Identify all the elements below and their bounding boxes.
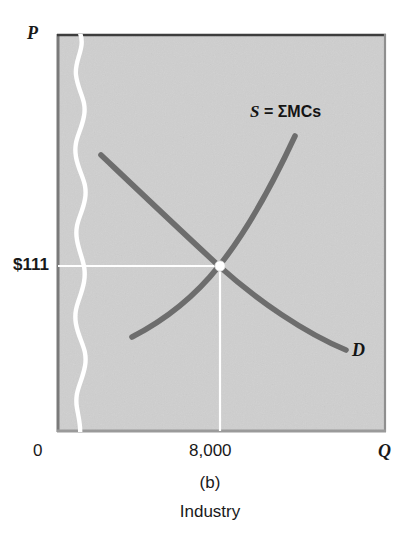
y-tick-label-equilibrium-price: $111 [13,256,49,273]
y-axis-label-price: P [27,24,38,42]
demand-curve-label: D [352,341,365,359]
equilibrium-point-marker [215,261,225,271]
panel-letter-caption: (b) [40,474,380,491]
supply-curve-label: S = ΣMCs [250,103,321,120]
figure-panel-b: P Q 0 $111 8,000 S = ΣMCs D (b) Industry [0,0,411,533]
origin-label: 0 [33,442,42,459]
x-axis-label-quantity: Q [378,442,391,460]
x-tick-label-equilibrium-quantity: 8,000 [189,442,232,459]
panel-title-caption: Industry [40,503,380,520]
supply-curve-label-expression: = ΣMCs [259,103,321,120]
plot-area [57,34,386,432]
